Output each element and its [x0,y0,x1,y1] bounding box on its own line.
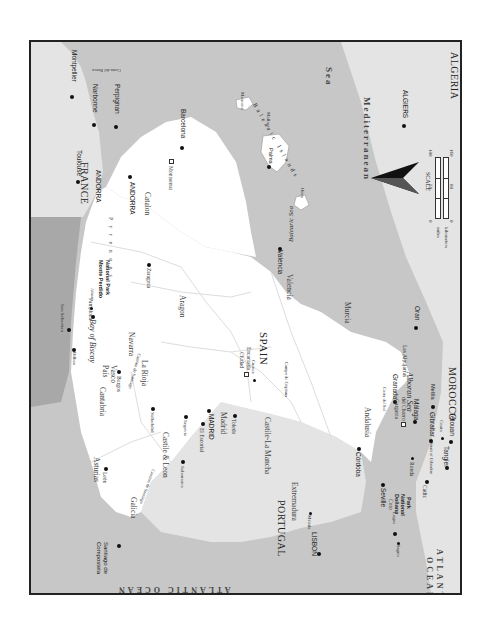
label-aragon: Aragon [179,295,187,318]
label-cantabria: Cantabria [99,387,107,416]
label-bilbao: Bilbao [72,352,77,365]
label-murcia: Murcia [344,302,352,324]
city-dot-lagos [393,532,397,536]
label-strait-of-gibraltar: Strait of Gibraltar [429,442,434,474]
label-el-escorial: El Escorial [199,428,205,452]
city-dot-andorra [128,175,132,179]
landmark-ciudad-encantada-icon [244,372,249,377]
scale-km-tick-0: 0 [449,220,454,223]
city-dot-zaragoza [147,263,151,267]
label-andalusia: Andalusia [364,407,372,437]
city-dot-malaga [413,420,417,424]
label-cuenca: Cuenca [251,360,256,374]
city-dot-valladolid [151,407,155,411]
label-campo-de-criptana: Campo de Criptana [284,362,289,397]
label-atlantic-bottom-2: OCEAN [425,557,433,595]
label-palma: Palma [268,148,274,164]
label-santiago-1: Santiago de [103,542,109,574]
city-dot-toledo [233,414,237,418]
label-pais: País [102,365,110,378]
city-dot-perpignan [114,125,118,129]
label-cordoba: Córdoba [355,452,362,477]
city-dot-cordoba [357,447,361,451]
city-dot-ceuta [441,437,444,440]
city-dot-burgos [117,370,121,374]
label-toulouse: Toulouse [76,150,83,176]
scale-bar-miles [435,157,441,219]
label-algeria: ALGERIA [449,52,459,99]
label-cadiz: Cádiz [422,485,428,498]
city-dot-seville [381,483,385,487]
label-extremadura: Extremadura [291,482,299,521]
scale-km-tick-80: 80 [449,184,454,189]
city-dot-toulouse [76,180,80,184]
label-coto-3: National [400,494,406,516]
label-valencia-region: Valencia [286,274,294,300]
label-segovia: Segovia [183,420,188,436]
city-dot-palma [267,165,271,169]
scale-miles-tick-0: 0 [428,220,433,223]
label-montserrat: Montserrat [168,166,174,190]
label-garganta-2: del Chorro [401,397,407,421]
label-menorca: Menorca [240,92,245,110]
city-dot-salamanca [181,460,185,464]
city-dot-cuenca [253,379,256,382]
label-tangier: Tangier [443,446,450,467]
label-garganta-1: Garganta [394,399,400,419]
label-asturias: Asturias [93,457,101,482]
label-sea: Sea [324,67,333,87]
label-monte-perdido-2: National Park [105,260,111,295]
city-dot-gibraltar [429,439,433,443]
city-dot-tetouan [449,440,453,444]
city-dot-cadiz [425,480,429,484]
label-costa-del-sol: Costa del Sol [382,387,387,411]
label-costa-brava: Costa del Brava [92,68,121,73]
label-la-rioja: La Rioja [141,360,149,386]
city-dot-ronda [411,457,414,460]
label-atlantic-bottom-1: ATLANTIC [435,549,443,595]
city-dot-san-sebastian [67,328,71,332]
label-merida: Mérida [307,515,312,529]
label-spain: SPAIN [258,332,269,365]
label-san-sebastian: San Sebastian [60,304,65,332]
label-catalon: Catalon [144,192,152,215]
city-dot-ainsa [90,307,93,310]
city-dot-montpellier [70,95,74,99]
label-salamanca: Salamanca [180,466,185,488]
label-ceuta: Ceuta [439,420,444,432]
scale-km-label: kilometers [444,227,449,248]
label-leon: León [102,472,108,483]
city-dot-narbonne [92,123,96,127]
label-andorra-city: ANDORRA [129,182,136,215]
label-seville: Seville [380,488,387,507]
label-oran: Oran [414,306,421,320]
label-gibraltar: Gibraltar [429,412,436,437]
spain-map: FRANCE SPAIN PORTUGAL ANDORRA MOROCCO AL… [29,40,462,595]
label-balearic-sea: Balearic Sea [288,206,295,242]
label-perpignan: Perpignan [114,84,121,114]
city-dot-segovia [184,415,188,419]
label-malaga: Málaga [413,399,420,420]
scale-miles-tick-50: 50 [428,184,433,189]
landmark-montserrat-icon [169,159,174,164]
label-las-alpujarras: Las Alpujarras [402,345,408,377]
label-sagres: Sagres [396,545,401,557]
label-coto-1: Coto [388,499,394,510]
label-coto-2: Doñana [394,494,400,514]
scale-miles-label: miles [436,227,441,238]
label-ainsa: Aínsa [90,288,95,299]
label-andorra-country: ANDORRA [95,170,102,203]
label-narbonne: Narbonne [92,84,99,113]
city-dot-barcelona [180,146,184,150]
label-toledo: Toledo [231,419,237,434]
label-ibiza: Ibiza [300,188,305,198]
city-dot-santiago [117,544,121,548]
label-galicia: Galicia [130,497,138,519]
city-dot-oran [414,326,418,330]
city-dot-algiers [402,124,406,128]
label-valladolid: Valladolid [150,412,155,433]
label-ciudad: Ciudad [239,352,245,368]
city-dot-madrid [207,409,211,413]
label-valencia-city: Valencia [277,250,284,274]
label-barcelona: Barcelona [180,109,187,138]
